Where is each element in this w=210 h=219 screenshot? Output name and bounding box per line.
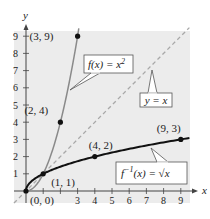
y-tick-label: 5 bbox=[13, 100, 18, 111]
y-tick-label: 7 bbox=[13, 65, 18, 76]
point-label: (1, 1) bbox=[51, 176, 75, 189]
y-tick-label: 9 bbox=[13, 31, 18, 42]
x-tick-label: 3 bbox=[75, 195, 80, 206]
point-label: (3, 9) bbox=[30, 30, 54, 43]
y-axis-arrow-icon bbox=[24, 24, 29, 30]
x-tick-label: 5 bbox=[110, 195, 115, 206]
x-tick-label: 8 bbox=[161, 195, 166, 206]
x-tick-label: 4 bbox=[92, 195, 97, 206]
data-point bbox=[92, 154, 97, 159]
y-tick-label: 8 bbox=[13, 48, 18, 59]
point-label: (4, 2) bbox=[89, 139, 113, 152]
data-point bbox=[41, 171, 46, 176]
x-axis-arrow-icon bbox=[192, 189, 198, 194]
function-inverse-graph: xy3456789123456789 f(x) = x2y = xf−1(x) … bbox=[0, 0, 210, 219]
x-tick-label: 9 bbox=[178, 195, 183, 206]
y-tick-label: 6 bbox=[13, 82, 18, 93]
point-label: (0, 0) bbox=[30, 194, 54, 207]
y-tick-label: 2 bbox=[13, 151, 18, 162]
point-label: (9, 3) bbox=[157, 122, 181, 135]
label-y-equals-x-text: y = x bbox=[144, 94, 168, 106]
y-tick-label: 4 bbox=[13, 117, 18, 128]
data-point bbox=[23, 188, 28, 193]
point-label: (2, 4) bbox=[24, 104, 48, 117]
x-axis-label: x bbox=[201, 184, 207, 196]
label-x-squared-text: f(x) = x2 bbox=[88, 57, 125, 71]
x-tick-label: 7 bbox=[144, 195, 149, 206]
y-tick-label: 3 bbox=[13, 134, 18, 145]
y-axis-label: y bbox=[22, 9, 28, 21]
data-point bbox=[178, 137, 183, 142]
data-point bbox=[58, 120, 63, 125]
x-tick-label: 6 bbox=[127, 195, 132, 206]
y-tick-label: 1 bbox=[13, 168, 18, 179]
data-point bbox=[75, 34, 80, 39]
